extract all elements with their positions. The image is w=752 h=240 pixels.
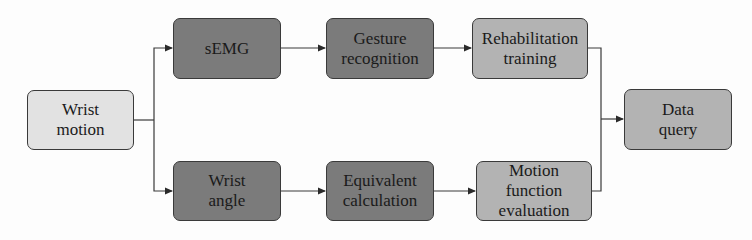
node-label: training xyxy=(504,49,557,69)
node-label: Gesture xyxy=(354,29,407,49)
node-wrist-angle: Wrist angle xyxy=(173,161,281,221)
node-label: motion xyxy=(56,120,104,140)
edge-to-semg xyxy=(154,48,172,120)
node-label: query xyxy=(659,120,698,140)
node-label: Motion xyxy=(509,161,559,181)
node-label: sEMG xyxy=(205,39,249,59)
node-motion-function-evaluation: Motion function evaluation xyxy=(476,161,592,221)
node-label: Wrist xyxy=(62,100,99,120)
node-label: Equivalent xyxy=(343,171,417,191)
node-rehabilitation-training: Rehabilitation training xyxy=(472,18,588,79)
node-data-query: Data query xyxy=(624,89,732,150)
node-label: function xyxy=(506,181,563,201)
node-label: recognition xyxy=(341,49,418,69)
node-label: angle xyxy=(209,191,246,211)
node-gesture-recognition: Gesture recognition xyxy=(326,18,434,79)
node-label: calculation xyxy=(343,191,418,211)
node-label: Wrist xyxy=(208,171,245,191)
node-wrist-motion: Wrist motion xyxy=(27,90,134,150)
node-label: evaluation xyxy=(499,201,570,221)
node-equivalent-calculation: Equivalent calculation xyxy=(326,161,434,221)
edge-to-wrist-angle xyxy=(154,120,172,191)
node-label: Rehabilitation xyxy=(482,29,578,49)
node-label: Data xyxy=(662,100,694,120)
node-semg: sEMG xyxy=(173,18,281,79)
flowchart-canvas: Wrist motion sEMG Gesture recognition Re… xyxy=(0,0,752,240)
